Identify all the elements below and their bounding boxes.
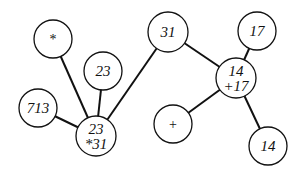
node-n_star: *: [34, 20, 72, 58]
node-label: 23: [96, 63, 111, 79]
node-label: +: [169, 117, 177, 132]
node-n_plus: +: [154, 105, 192, 143]
node-label: 31: [160, 24, 176, 40]
node-label: *31: [85, 136, 108, 152]
node-label: 17: [250, 23, 267, 39]
node-n_14_bottom: 14: [249, 127, 287, 165]
node-n_17: 17: [238, 12, 276, 50]
node-n_23_top: 23: [84, 52, 122, 90]
node-n_713: 713: [19, 89, 57, 127]
node-label: *: [50, 32, 57, 47]
node-label: 23: [89, 121, 104, 137]
tree-diagram: *2371323*31311714+17+14: [0, 0, 303, 176]
node-label: 14: [229, 63, 245, 79]
node-n_23_31: 23*31: [76, 116, 116, 156]
node-label: 713: [27, 100, 50, 116]
node-n_14_17: 14+17: [216, 58, 256, 98]
nodes: *2371323*31311714+17+14: [19, 12, 287, 165]
node-label: 14: [261, 138, 277, 154]
node-label: +17: [223, 78, 250, 94]
node-n_31: 31: [148, 12, 188, 52]
